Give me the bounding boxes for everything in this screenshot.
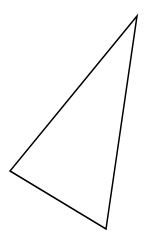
background	[0, 0, 149, 252]
diagram-canvas	[0, 0, 149, 252]
